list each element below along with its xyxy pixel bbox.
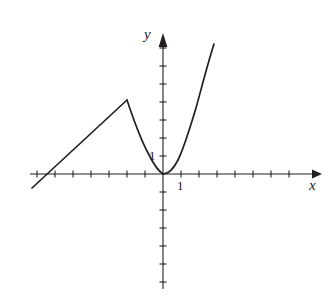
y-axis-arrowhead — [159, 33, 168, 47]
function-curve — [32, 44, 214, 188]
curve-right-rising-branch — [163, 44, 214, 174]
x-axis-label: x — [309, 178, 316, 193]
curve-left-linear-branch — [32, 100, 127, 188]
plot-canvas — [0, 0, 331, 304]
y-axis-label: y — [144, 27, 151, 42]
y-axis-tick-label-one: 1 — [149, 149, 156, 162]
axes-group — [30, 33, 322, 289]
curve-descending-to-origin — [127, 100, 163, 174]
x-axis-tick-label-one: 1 — [177, 179, 184, 192]
function-graph-figure: y x 1 1 — [0, 0, 331, 304]
